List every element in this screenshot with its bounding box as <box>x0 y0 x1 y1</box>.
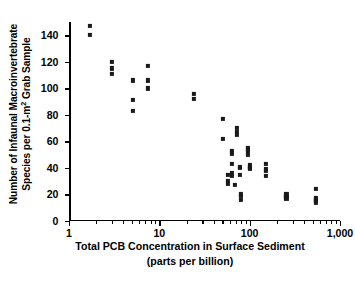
x-axis-minor-tick <box>304 221 305 224</box>
data-point <box>110 66 114 70</box>
data-point <box>232 183 236 187</box>
data-point <box>284 196 288 200</box>
y-axis-tick-label: 100 <box>41 82 59 94</box>
y-axis-tick-label: 0 <box>53 215 59 227</box>
x-axis-title-line-1: Total PCB Concentration in Surface Sedim… <box>75 240 304 252</box>
data-point <box>221 137 225 141</box>
data-point <box>246 153 250 157</box>
data-point <box>238 166 242 170</box>
x-axis-minor-tick <box>230 221 231 224</box>
x-axis-minor-tick <box>187 221 188 224</box>
y-axis-tick-label: 40 <box>47 162 59 174</box>
x-axis-title: Total PCB Concentration in Surface Sedim… <box>30 239 350 269</box>
x-axis-minor-tick <box>241 221 242 224</box>
data-point <box>230 174 234 178</box>
y-axis-title: Number of Infaunal Macroinvertebrate Spe… <box>8 24 33 204</box>
x-axis-minor-tick <box>214 221 215 224</box>
x-axis-minor-tick <box>331 221 332 224</box>
data-point <box>263 162 267 166</box>
data-point <box>263 168 267 172</box>
data-point <box>192 92 196 96</box>
x-axis-minor-tick <box>139 221 140 224</box>
plot-area: 020406080100120140 1101001,000 <box>69 22 340 221</box>
data-point <box>314 200 318 204</box>
data-point <box>146 86 150 90</box>
data-point <box>131 98 135 102</box>
x-axis-tick-label: 10 <box>153 227 165 239</box>
y-axis-title-line-1: Number of Infaunal Macroinvertebrate <box>8 24 19 204</box>
x-axis-minor-tick <box>132 221 133 224</box>
data-point <box>146 78 150 82</box>
y-axis-tick: 40 <box>65 168 70 169</box>
x-axis-minor-tick <box>236 221 237 224</box>
data-point <box>230 162 234 166</box>
x-axis-minor-tick <box>246 221 247 224</box>
x-axis-minor-tick <box>222 221 223 224</box>
y-axis-title-line-2-post: Grab Sample <box>21 37 32 101</box>
data-point <box>226 172 230 176</box>
x-axis-minor-tick <box>336 221 337 224</box>
data-point <box>238 172 242 176</box>
data-point <box>110 72 114 76</box>
y-axis-tick: 20 <box>65 194 70 195</box>
y-axis-tick: 100 <box>65 88 70 89</box>
y-axis-tick-label: 80 <box>47 109 59 121</box>
y-axis-tick-label: 120 <box>41 56 59 68</box>
x-axis-minor-tick <box>326 221 327 224</box>
x-axis-tick-label: 1,000 <box>327 227 354 239</box>
data-point <box>88 24 92 28</box>
x-axis-minor-tick <box>293 221 294 224</box>
x-axis-minor-tick <box>277 221 278 224</box>
data-point <box>239 198 243 202</box>
y-axis-tick: 120 <box>65 62 70 63</box>
data-point <box>230 151 234 155</box>
x-axis-minor-tick <box>96 221 97 224</box>
x-axis-minor-tick <box>320 221 321 224</box>
data-point <box>235 133 239 137</box>
y-axis-title-line-2: Species per 0.1-m2 Grab Sample <box>21 24 34 204</box>
y-axis-tick: 140 <box>65 35 70 36</box>
x-axis-tick-label: 100 <box>241 227 259 239</box>
y-axis-tick: 60 <box>65 141 70 142</box>
y-axis-tick-label: 20 <box>47 188 59 200</box>
x-axis-line <box>69 220 340 222</box>
data-point <box>88 33 92 37</box>
x-axis-tick <box>159 221 160 226</box>
data-point <box>131 78 135 82</box>
x-axis-minor-tick <box>145 221 146 224</box>
data-point <box>314 187 318 191</box>
x-axis-tick <box>69 221 70 226</box>
x-axis-tick <box>340 221 341 226</box>
y-axis-tick-label: 140 <box>41 29 59 41</box>
x-axis-minor-tick <box>151 221 152 224</box>
x-axis-minor-tick <box>313 221 314 224</box>
data-point <box>146 64 150 68</box>
y-axis-title-container: Number of Infaunal Macroinvertebrate Spe… <box>0 0 42 228</box>
x-axis-minor-tick <box>112 221 113 224</box>
data-point <box>192 97 196 101</box>
data-point <box>226 182 230 186</box>
y-axis-line <box>69 22 71 221</box>
x-axis-minor-tick <box>155 221 156 224</box>
y-axis-tick-label: 60 <box>47 135 59 147</box>
scatter-plot-figure: Number of Infaunal Macroinvertebrate Spe… <box>0 0 355 283</box>
x-axis-minor-tick <box>202 221 203 224</box>
data-point <box>263 174 267 178</box>
x-axis-tick-label: 1 <box>66 227 72 239</box>
x-axis-tick <box>250 221 251 226</box>
data-point <box>131 109 135 113</box>
y-axis-tick: 80 <box>65 115 70 116</box>
y-axis-title-line-2-pre: Species per 0.1-m <box>21 106 32 191</box>
y-axis-title-superscript: 2 <box>19 102 28 106</box>
x-axis-title-line-2: (parts per billion) <box>30 254 350 269</box>
x-axis-minor-tick <box>123 221 124 224</box>
data-point <box>248 167 252 171</box>
data-point <box>221 117 225 121</box>
data-point <box>110 60 114 64</box>
